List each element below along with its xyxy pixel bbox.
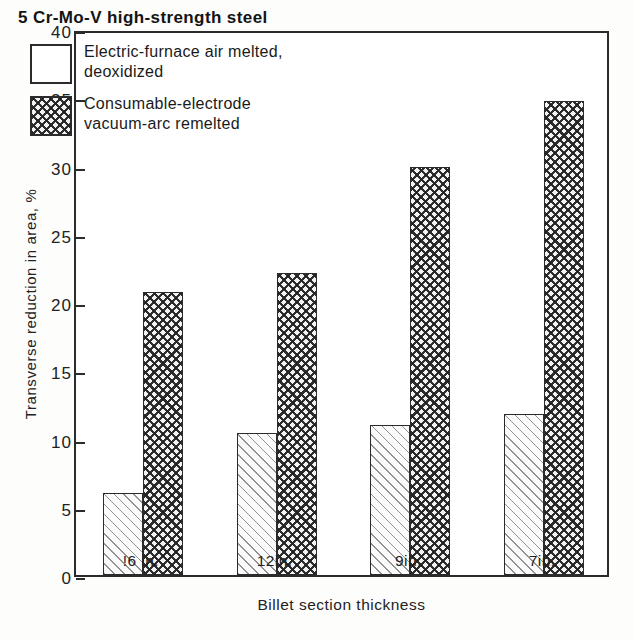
legend-swatch-cross-hatch-icon: [30, 96, 72, 136]
x-axis-title: Billet section thickness: [74, 596, 609, 614]
x-axis-tick-label: 9in.: [395, 552, 422, 570]
bar-consumable-electrode-12in: [277, 273, 317, 575]
y-axis-tick-label: 20: [42, 296, 72, 316]
y-axis-tick-label: 15: [42, 364, 72, 384]
legend-label-line1: Consumable-electrode: [84, 94, 251, 114]
legend: 5 Cr-Mo-V high-strength steel Electric-f…: [18, 8, 418, 146]
y-axis-tick-label: 10: [42, 433, 72, 453]
y-axis-tick-label: 0: [42, 569, 72, 589]
y-axis-tick-label: 5: [42, 501, 72, 521]
chart-figure: Transverse reduction in area, % 05101520…: [0, 0, 634, 641]
y-axis-tick-mark: [76, 510, 85, 512]
legend-label-line2: vacuum-arc remelted: [84, 114, 251, 134]
legend-label-line1: Electric-furnace air melted,: [84, 42, 283, 62]
x-axis-tick-label: 12in.: [257, 552, 293, 570]
legend-label-electric-furnace: Electric-furnace air melted, deoxidized: [84, 42, 283, 83]
y-axis-tick-mark: [76, 578, 85, 580]
y-axis-title: Transverse reduction in area, %: [22, 189, 39, 420]
x-axis-tick-label: 7in.: [529, 552, 556, 570]
y-axis-tick-mark: [76, 237, 85, 239]
y-axis-tick-label: 30: [42, 160, 72, 180]
bar-consumable-electrode-16in: [143, 292, 183, 575]
legend-item-consumable-electrode: Consumable-electrode vacuum-arc remelted: [18, 94, 418, 136]
bar-consumable-electrode-7in: [544, 101, 584, 575]
y-axis-tick-label: 25: [42, 228, 72, 248]
y-axis-tick-mark: [76, 169, 85, 171]
y-axis-tick-mark: [76, 442, 85, 444]
bar-consumable-electrode-9in: [410, 167, 450, 575]
y-axis-tick-mark: [76, 373, 85, 375]
chart-title: 5 Cr-Mo-V high-strength steel: [18, 8, 418, 28]
legend-swatch-diagonal-hatch-icon: [30, 44, 72, 84]
x-axis-tick-label: !6 in.: [123, 552, 159, 570]
legend-label-consumable-electrode: Consumable-electrode vacuum-arc remelted: [84, 94, 251, 135]
legend-item-electric-furnace: Electric-furnace air melted, deoxidized: [18, 42, 418, 84]
bar-electric-furnace-7in: [504, 414, 544, 575]
y-axis-tick-mark: [76, 305, 85, 307]
legend-label-line2: deoxidized: [84, 62, 283, 82]
